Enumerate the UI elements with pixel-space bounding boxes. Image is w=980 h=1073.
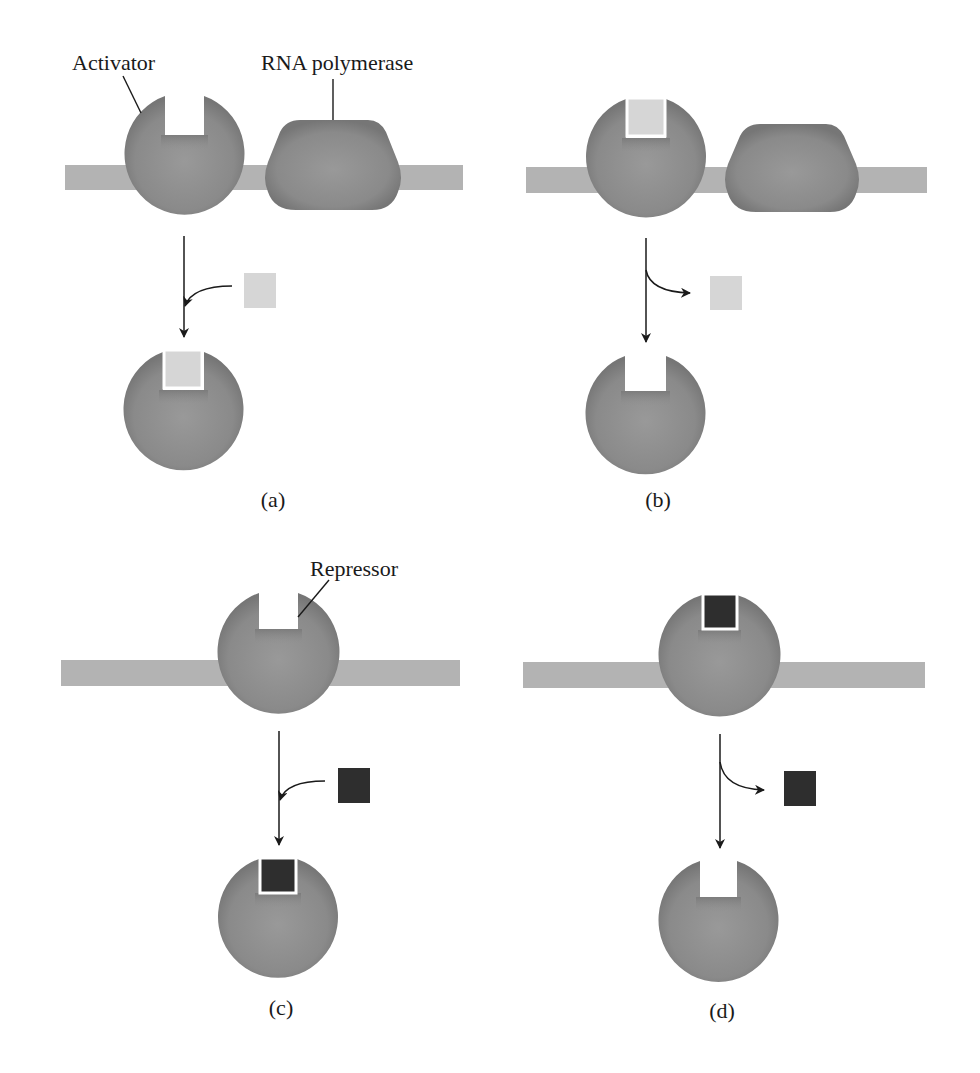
diagram-canvas [0,0,980,1073]
repressor-label: Repressor [310,558,398,580]
dark-ligand [784,771,816,806]
light-ligand [244,273,276,308]
ligand-in-arrow [280,781,325,800]
repressor-protein [659,861,779,982]
dark-ligand [338,768,370,803]
activator-leader [123,76,141,113]
repressor-ligand-complex [218,858,338,978]
activator-protein [125,96,245,215]
panel-a [65,76,463,470]
ligand-in-arrow [185,286,232,306]
activator-ligand-complex [124,350,244,470]
panel-c [61,580,460,978]
repressor-protein [217,593,339,714]
panel-label-a: (a) [261,489,285,511]
ligand-out-arrow [646,270,690,293]
activator-protein [586,356,706,474]
panel-label-b: (b) [645,489,671,511]
activator-ligand-complex [586,98,706,218]
ligand-out-arrow [720,762,764,790]
panel-d [523,594,925,982]
dna-strand [65,165,463,190]
rna-polymerase-label: RNA polymerase [261,52,413,74]
regulation-diagram: Activator RNA polymerase Repressor (a) (… [0,0,980,1073]
rna-polymerase [265,120,401,210]
activator-label: Activator [72,52,155,74]
panel-label-c: (c) [269,997,293,1019]
repressor-ligand-complex [658,594,780,716]
panel-label-d: (d) [709,1000,735,1022]
rna-polymerase [725,124,859,212]
panel-b [526,98,927,474]
light-ligand [710,276,742,310]
